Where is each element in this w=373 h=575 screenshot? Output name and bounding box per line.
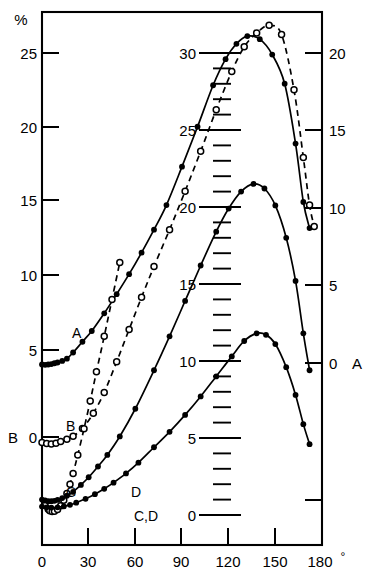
data-point — [262, 186, 268, 192]
data-point — [136, 460, 142, 466]
center-tick-label-20: 20 — [179, 199, 196, 216]
right-axis-ticks — [305, 53, 322, 500]
data-point — [291, 87, 297, 93]
series-b — [39, 22, 317, 447]
right-tick-label-5: 5 — [329, 277, 337, 294]
data-point — [70, 433, 76, 439]
data-point — [182, 188, 188, 194]
left-tick-label-15: 15 — [20, 192, 37, 209]
data-point — [167, 227, 173, 233]
x-tick-label-0: 0 — [38, 553, 46, 570]
data-point — [92, 491, 98, 497]
data-point — [213, 229, 219, 235]
left-tick-label-25: 25 — [20, 45, 37, 62]
unit-label-percent: % — [14, 11, 27, 28]
data-point — [104, 452, 110, 458]
data-point — [229, 68, 235, 74]
data-point — [307, 367, 313, 373]
data-point — [81, 426, 87, 432]
data-point — [272, 341, 278, 347]
left-tick-label-5: 5 — [29, 342, 37, 359]
data-point — [48, 505, 54, 511]
data-point — [282, 81, 288, 87]
series-c — [42, 259, 123, 514]
data-point — [167, 429, 173, 435]
x-tick-label-60: 60 — [127, 553, 144, 570]
series-line-b — [42, 25, 314, 444]
data-point — [266, 22, 272, 28]
data-point — [61, 503, 67, 509]
bottom-axis-ticks — [42, 528, 322, 545]
data-point — [210, 82, 216, 88]
data-point — [234, 41, 240, 47]
data-point — [244, 33, 250, 39]
center-tick-label-5: 5 — [188, 430, 196, 447]
data-point — [164, 202, 170, 208]
data-point — [58, 439, 64, 445]
data-point — [139, 250, 145, 256]
data-point — [126, 326, 132, 332]
series-line-e — [42, 333, 310, 508]
curve-label-a: A — [72, 325, 82, 341]
data-point — [272, 203, 278, 209]
data-point — [86, 474, 92, 480]
left-tick-label-0: 0 — [29, 429, 37, 446]
data-point — [73, 500, 79, 506]
data-point — [67, 502, 73, 508]
data-point — [151, 444, 157, 450]
x-tick-label-90: 90 — [173, 553, 190, 570]
data-point — [89, 328, 95, 334]
data-point — [101, 333, 107, 339]
right-tick-label-10: 10 — [329, 200, 346, 217]
data-point — [64, 436, 70, 442]
data-point — [213, 374, 219, 380]
data-point — [114, 291, 120, 297]
center-tick-label-0: 0 — [188, 507, 196, 524]
left-axis-series-label-b: B — [8, 429, 18, 446]
center-tick-label-30: 30 — [179, 45, 196, 62]
data-point — [151, 227, 157, 233]
data-point — [132, 406, 138, 412]
data-point — [300, 199, 306, 205]
curve-label-b: B — [66, 418, 75, 434]
data-point — [257, 36, 263, 42]
curve-label-d: D — [131, 484, 141, 500]
right-tick-label-20: 20 — [329, 45, 346, 62]
data-point — [198, 263, 204, 269]
left-tick-label-20: 20 — [20, 119, 37, 136]
right-axis-series-label-a: A — [352, 355, 362, 372]
data-point — [167, 333, 173, 339]
data-point — [311, 224, 317, 230]
data-point — [83, 496, 89, 502]
data-point — [195, 124, 201, 130]
left-tick-label-10: 10 — [20, 267, 37, 284]
data-point — [117, 434, 123, 440]
data-point — [229, 353, 235, 359]
data-point — [198, 148, 204, 154]
center-tick-label-10: 10 — [179, 353, 196, 370]
data-point — [251, 181, 257, 187]
data-point — [307, 202, 313, 208]
x-tick-label-180: 180 — [307, 553, 332, 570]
data-point — [263, 332, 269, 338]
data-point — [139, 294, 145, 300]
data-point — [241, 44, 247, 50]
data-point — [78, 482, 84, 488]
data-point — [300, 330, 306, 336]
data-point — [179, 164, 185, 170]
data-point — [55, 504, 61, 510]
data-point — [213, 107, 219, 113]
data-point — [109, 296, 115, 302]
data-point — [300, 421, 306, 427]
data-point — [117, 259, 123, 265]
data-point — [111, 480, 117, 486]
data-point — [269, 52, 275, 58]
data-point — [283, 364, 289, 370]
data-point — [293, 392, 299, 398]
series-a — [39, 33, 312, 368]
data-point — [182, 412, 188, 418]
data-point — [93, 369, 99, 375]
data-point — [226, 206, 232, 212]
data-point — [90, 410, 96, 416]
data-point — [114, 359, 120, 365]
